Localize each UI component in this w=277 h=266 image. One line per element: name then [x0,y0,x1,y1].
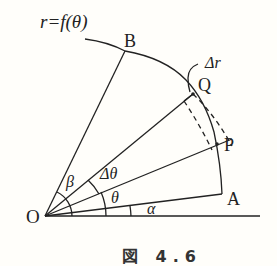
delta-r-label: Δr [205,55,221,71]
dashed-sector-inner [184,101,212,150]
point-P-dot [215,142,219,146]
origin-label: O [26,207,40,226]
angle-arc-alpha [130,206,131,216]
delta-theta-label: Δθ [100,166,117,182]
figure-caption: 図 4.6 [122,249,202,265]
theta-label: θ [111,190,119,206]
beta-label: β [66,174,74,190]
point-Q-dot [191,92,195,96]
curve-label: r=f(θ) [40,12,87,31]
point-B-label: B [124,32,136,50]
point-Q-label: Q [198,76,211,94]
ray-OQ [45,94,193,216]
angle-arc-theta [101,192,106,216]
point-P-label: P [224,136,234,154]
point-A-label: A [227,190,240,208]
angle-arc-delta-theta [88,180,99,194]
alpha-label: α [147,201,155,217]
